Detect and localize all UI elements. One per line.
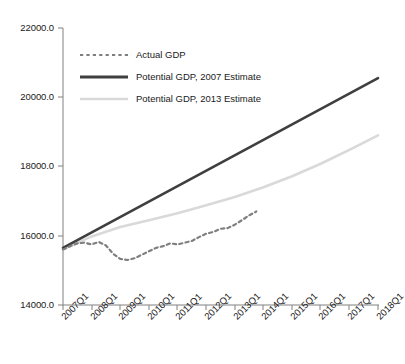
y-tick-label-22000: 22000.0 bbox=[4, 22, 54, 33]
legend-label-actual-gdp: Actual GDP bbox=[136, 49, 186, 60]
series-line-potential-2013 bbox=[63, 135, 378, 249]
legend-label-potential-2013: Potential GDP, 2013 Estimate bbox=[136, 93, 261, 104]
y-tick-label-16000: 16000.0 bbox=[4, 230, 54, 241]
y-axis-ticks bbox=[58, 28, 63, 305]
legend-swatches bbox=[80, 55, 128, 99]
y-tick-label-20000: 20000.0 bbox=[4, 91, 54, 102]
legend-label-potential-2007: Potential GDP, 2007 Estimate bbox=[136, 71, 261, 82]
y-tick-label-14000: 14000.0 bbox=[4, 299, 54, 310]
y-tick-label-18000: 18000.0 bbox=[4, 160, 54, 171]
